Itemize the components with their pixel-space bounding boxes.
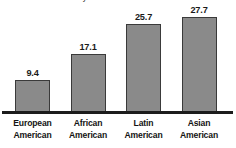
bar-chart: a different racial identity 9.417.125.72… <box>0 0 236 148</box>
category-label-line: American <box>172 130 227 142</box>
bar-group: 27.7 <box>182 6 217 112</box>
bar-group: 17.1 <box>71 6 106 112</box>
chart-title: a different racial identity <box>3 0 233 2</box>
plot-area: 9.417.125.727.7 <box>0 6 236 112</box>
category-label-line: Latin <box>116 118 171 130</box>
category-label-line: Asian <box>172 118 227 130</box>
bar <box>182 17 217 112</box>
bar-group: 9.4 <box>15 6 50 112</box>
category-label-line: European <box>5 118 60 130</box>
bar-value-label: 27.7 <box>190 5 207 15</box>
category-axis-labels: EuropeanAmericanAfricanAmericanLatinAmer… <box>0 118 236 148</box>
category-label: EuropeanAmerican <box>5 118 60 141</box>
x-axis-baseline <box>2 111 233 114</box>
category-label: AfricanAmerican <box>61 118 116 141</box>
category-label-line: American <box>5 130 60 142</box>
category-label-line: African <box>61 118 116 130</box>
bar-value-label: 25.7 <box>135 12 152 22</box>
bar <box>71 54 106 112</box>
category-label-line: American <box>116 130 171 142</box>
bar-group: 25.7 <box>126 6 161 112</box>
bar-value-label: 9.4 <box>26 68 38 78</box>
category-label: AsianAmerican <box>172 118 227 141</box>
category-label: LatinAmerican <box>116 118 171 141</box>
bar-value-label: 17.1 <box>79 42 96 52</box>
bar <box>126 24 161 112</box>
bar <box>15 80 50 112</box>
category-label-line: American <box>61 130 116 142</box>
